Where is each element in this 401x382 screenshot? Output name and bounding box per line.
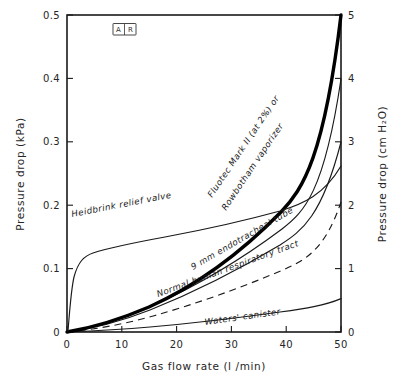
right-tick-label-2: 2 bbox=[348, 200, 355, 211]
label-heidbrink-text: Heidbrink relief valve bbox=[70, 190, 172, 219]
label-heidbrink: Heidbrink relief valve bbox=[70, 190, 172, 219]
bottom-tick-labels: 0 10 20 30 40 50 bbox=[64, 339, 348, 350]
pressure-drop-chart: 0 0.1 0.2 0.3 0.4 0.5 0 1 2 3 4 5 0 10 2… bbox=[0, 0, 401, 382]
right-tick-labels: 0 1 2 3 4 5 bbox=[348, 10, 355, 338]
left-tick-label-0: 0 bbox=[53, 327, 60, 338]
right-tick-label-3: 3 bbox=[348, 136, 355, 147]
x-axis-title: Gas flow rate (l /min) bbox=[142, 360, 266, 372]
air-badge-left-letter: A bbox=[116, 26, 121, 34]
label-waters-canister-text: Waters' canister bbox=[204, 306, 281, 327]
y-axis-title-left: Pressure drop (kPa) bbox=[14, 117, 26, 230]
x-tick-label-0: 0 bbox=[64, 339, 71, 350]
right-tick-label-5: 5 bbox=[348, 10, 355, 21]
curve-waters-canister bbox=[67, 299, 341, 332]
right-tick-label-0: 0 bbox=[348, 327, 355, 338]
left-tick-labels: 0 0.1 0.2 0.3 0.4 0.5 bbox=[43, 10, 60, 338]
right-tick-label-4: 4 bbox=[348, 73, 355, 84]
right-tick-label-1: 1 bbox=[348, 263, 355, 274]
curve-fluotec-mark-ii bbox=[67, 15, 341, 332]
curve-endotracheal-tube bbox=[67, 142, 341, 332]
left-tick-label-2: 0.2 bbox=[43, 200, 60, 211]
left-tick-label-4: 0.4 bbox=[43, 73, 60, 84]
curve-heidbrink-relief-valve bbox=[68, 166, 341, 331]
label-fluotec: Fluotec Mark II (at 2%) or Rowbotham vap… bbox=[205, 93, 285, 212]
chart-svg: 0 0.1 0.2 0.3 0.4 0.5 0 1 2 3 4 5 0 10 2… bbox=[0, 0, 401, 382]
air-badge: A R bbox=[113, 24, 136, 36]
left-tick-label-1: 0.1 bbox=[43, 263, 60, 274]
left-tick-label-5: 0.5 bbox=[43, 10, 60, 21]
curve-normal-respiratory-tract bbox=[67, 202, 341, 332]
x-tick-label-4: 40 bbox=[279, 339, 293, 350]
air-badge-right-letter: R bbox=[128, 26, 133, 34]
x-tick-label-1: 10 bbox=[115, 339, 129, 350]
label-waters-canister: Waters' canister bbox=[204, 306, 281, 327]
x-tick-label-5: 50 bbox=[334, 339, 348, 350]
y-axis-title-right: Pressure drop (cm H₂O) bbox=[376, 106, 388, 242]
x-tick-label-3: 30 bbox=[225, 339, 239, 350]
x-tick-label-2: 20 bbox=[170, 339, 184, 350]
left-tick-label-3: 0.3 bbox=[43, 136, 60, 147]
plot-frame bbox=[67, 15, 341, 332]
